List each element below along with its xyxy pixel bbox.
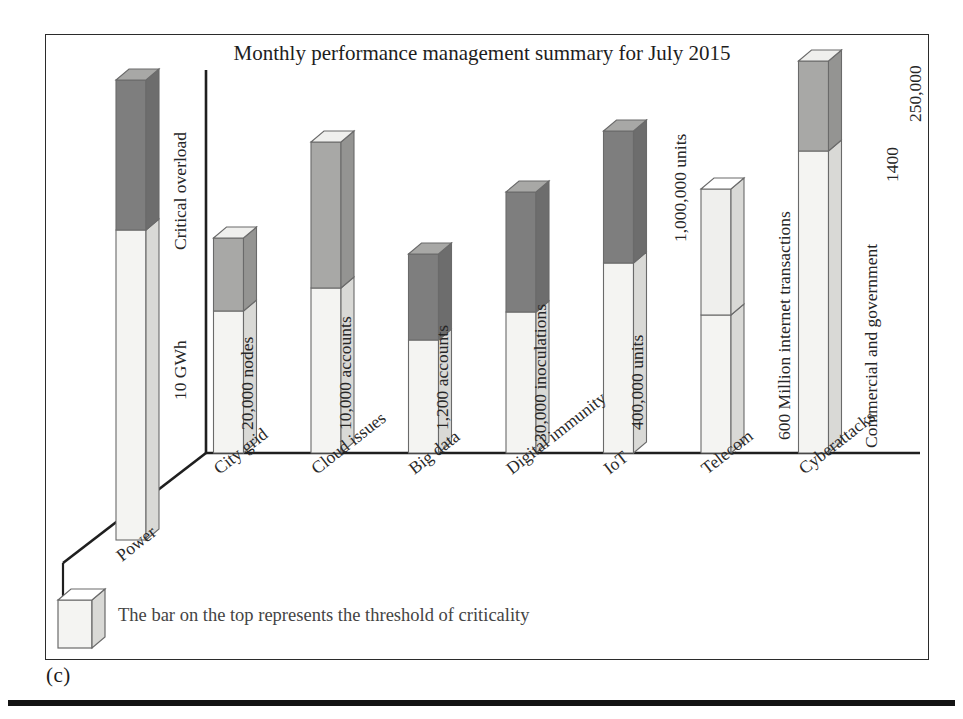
bar-cyberattacks-threshold-side [829, 50, 842, 151]
bar-cloud-issues-threshold-side [341, 131, 354, 288]
chart-title: Monthly performance management summary f… [234, 41, 731, 65]
legend-cube-face [58, 600, 92, 648]
bar-telecom-threshold-face [701, 189, 731, 315]
value-label-cyberattacks-1: Commercial and government [861, 244, 881, 448]
value-label-iot-1: 400,000 units [627, 335, 647, 430]
bar-digital-immunity-threshold-face [506, 192, 536, 312]
bar-digital-immunity-threshold-side [536, 181, 549, 312]
bar-city-grid-threshold-face [214, 238, 244, 311]
axis-label-10gwh: 10 GWh [170, 340, 190, 400]
bar-cyberattacks-value-side [829, 140, 842, 453]
value-label-iot-2: 1,000,000 units [670, 133, 690, 242]
bar-power-threshold-side [146, 69, 159, 230]
figure-panel: Monthly performance management summary f… [0, 0, 963, 719]
figure-caption: (c) [46, 663, 71, 688]
bar-power-threshold-face [116, 80, 146, 230]
bar-iot-threshold-face [604, 131, 634, 263]
value-label-digital-immunity-1: 30,000 inoculations [530, 304, 550, 442]
bar-cyberattacks-value-face [799, 151, 829, 453]
value-label-big-data-1: 1,200 accounts [432, 325, 452, 430]
value-label-cyberattacks-3: 250,000 [905, 65, 925, 122]
bar-city-grid-threshold-side [244, 227, 257, 311]
value-label-telecom-1: 600 Million internet transactions [774, 211, 794, 440]
bottom-rule [8, 700, 955, 706]
value-label-cloud-issues-1: 10,000 accounts [335, 316, 355, 430]
bar-cyberattacks-threshold-face [799, 61, 829, 151]
bar-telecom-value-face [701, 315, 731, 453]
value-label-cyberattacks-2: 1400 [882, 147, 902, 182]
axis-label-critical-overload: Critical overload [170, 132, 190, 250]
value-label-city-grid-1: 20,000 nodes [237, 336, 257, 430]
bar-power-value-side [146, 219, 159, 540]
bar-power-value-face [116, 230, 146, 540]
bar-iot-threshold-side [634, 120, 647, 263]
legend-label: The bar on the top represents the thresh… [118, 605, 530, 626]
bar-telecom-threshold-side [731, 178, 744, 315]
bar-cloud-issues-threshold-face [311, 142, 341, 288]
